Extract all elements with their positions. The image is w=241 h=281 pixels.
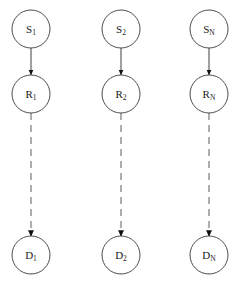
node-d2[interactable]: D2: [102, 236, 140, 274]
node-r2[interactable]: R2: [102, 75, 140, 113]
node-d1[interactable]: D1: [12, 236, 50, 274]
node-r1[interactable]: R1: [12, 75, 50, 113]
node-sn[interactable]: SN: [190, 10, 228, 48]
node-dn[interactable]: DN: [190, 236, 228, 274]
node-s1[interactable]: S1: [12, 10, 50, 48]
node-rn[interactable]: RN: [190, 75, 228, 113]
relay-network-diagram: S1R1D1S2R2D2SNRNDN: [0, 0, 241, 281]
node-s2[interactable]: S2: [102, 10, 140, 48]
nodes-layer: S1R1D1S2R2D2SNRNDN: [12, 10, 228, 274]
diagram-canvas-container: S1R1D1S2R2D2SNRNDN: [0, 0, 241, 281]
